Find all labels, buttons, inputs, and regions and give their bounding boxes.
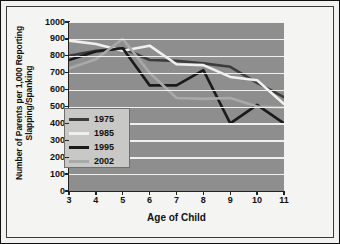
y-tick-mark	[65, 89, 69, 90]
gridline	[69, 39, 284, 40]
x-tick-mark	[176, 191, 177, 195]
legend-item-1985[interactable]: 1985	[69, 126, 125, 140]
legend-swatch-icon	[69, 160, 89, 163]
legend-item-1995[interactable]: 1995	[69, 140, 125, 154]
legend-label: 1985	[94, 129, 114, 138]
y-tick-mark	[65, 72, 69, 73]
x-tick-mark	[122, 191, 123, 195]
legend-swatch-icon	[69, 118, 89, 121]
x-tick-label: 9	[219, 195, 241, 205]
gridline	[69, 73, 284, 74]
chart-legend: 1975198519952002	[64, 108, 130, 168]
legend-label: 1995	[94, 143, 114, 152]
y-tick-label: 900	[35, 34, 65, 43]
chart-outer-frame: Number of Parents per 1,000 Reporting Sl…	[0, 0, 340, 244]
y-axis-tick-labels: 01002003004005006007008009001000	[32, 22, 65, 191]
y-tick-mark	[65, 21, 69, 22]
x-tick-mark	[230, 191, 231, 195]
x-tick-label: 3	[58, 195, 80, 205]
x-tick-mark	[256, 191, 257, 195]
legend-label: 1975	[94, 115, 114, 124]
y-tick-mark	[65, 106, 69, 107]
x-tick-mark	[95, 191, 96, 195]
y-tick-label: 700	[35, 68, 65, 77]
x-tick-mark	[149, 191, 150, 195]
y-tick-label: 300	[35, 136, 65, 145]
x-axis-tick-labels: 34567891011	[69, 195, 284, 209]
y-tick-mark	[65, 38, 69, 39]
y-tick-mark	[65, 173, 69, 174]
x-tick-label: 8	[192, 195, 214, 205]
x-tick-label: 7	[166, 195, 188, 205]
y-tick-mark	[65, 123, 69, 124]
x-axis-title: Age of Child	[69, 212, 284, 223]
gridline	[69, 90, 284, 91]
x-tick-label: 6	[139, 195, 161, 205]
y-tick-mark	[65, 157, 69, 158]
legend-swatch-icon	[69, 146, 89, 149]
x-tick-mark	[283, 191, 284, 195]
gridline	[69, 56, 284, 57]
x-tick-label: 5	[112, 195, 134, 205]
x-tick-mark	[68, 191, 69, 195]
y-tick-label: 200	[35, 153, 65, 162]
y-tick-label: 400	[35, 119, 65, 128]
legend-label: 2002	[94, 157, 114, 166]
y-tick-label: 500	[35, 102, 65, 111]
y-tick-label: 800	[35, 51, 65, 60]
x-tick-label: 11	[273, 195, 295, 205]
x-tick-mark	[203, 191, 204, 195]
y-tick-label: 1000	[35, 18, 65, 27]
y-tick-mark	[65, 140, 69, 141]
x-tick-label: 10	[246, 195, 268, 205]
y-tick-label: 100	[35, 170, 65, 179]
gridline	[69, 22, 284, 23]
gridline	[69, 174, 284, 175]
y-tick-label: 600	[35, 85, 65, 94]
legend-item-1975[interactable]: 1975	[69, 112, 125, 126]
legend-item-2002[interactable]: 2002	[69, 154, 125, 168]
x-tick-label: 4	[85, 195, 107, 205]
legend-swatch-icon	[69, 132, 89, 135]
y-tick-mark	[65, 55, 69, 56]
